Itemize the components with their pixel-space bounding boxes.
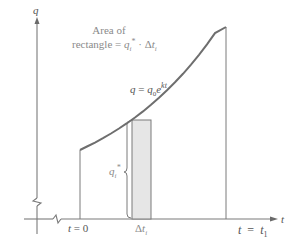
y-axis-label: q <box>33 4 39 16</box>
annotation-line-2: rectangle = qi* · Δti <box>72 37 157 53</box>
y-axis-break-icon <box>33 198 41 206</box>
x-axis-break-icon <box>53 215 61 223</box>
height-brace-icon <box>124 121 131 218</box>
height-label: qi* <box>109 163 120 180</box>
area-rectangle <box>132 120 151 219</box>
x-axis-arrow-icon <box>270 217 278 222</box>
x-axis-label: t <box>281 213 285 225</box>
y-axis <box>33 17 41 234</box>
t-one-label: t = t1 <box>217 223 282 240</box>
delta-t-label: Δti <box>135 222 147 237</box>
y-axis-arrow-icon <box>35 17 40 24</box>
t-zero-label: t = 0 <box>68 222 89 234</box>
exponential-area-diagram: q t Area of rectangle = qi* · Δti q = q0… <box>0 0 299 249</box>
annotation-line-1: Area of <box>92 24 126 36</box>
